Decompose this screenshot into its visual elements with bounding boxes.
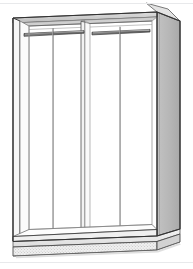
page-rule-top xyxy=(0,3,193,4)
drawing-canvas xyxy=(0,0,193,269)
wardrobe-cabinet-illustration xyxy=(0,0,193,269)
right-rail-support xyxy=(120,27,121,235)
back-panel xyxy=(29,21,152,234)
right-side-panel xyxy=(157,12,180,236)
left-side-panel xyxy=(13,18,29,244)
page-rule-bottom xyxy=(0,262,193,263)
center-divider xyxy=(81,21,90,239)
left-rail-support xyxy=(53,28,54,238)
